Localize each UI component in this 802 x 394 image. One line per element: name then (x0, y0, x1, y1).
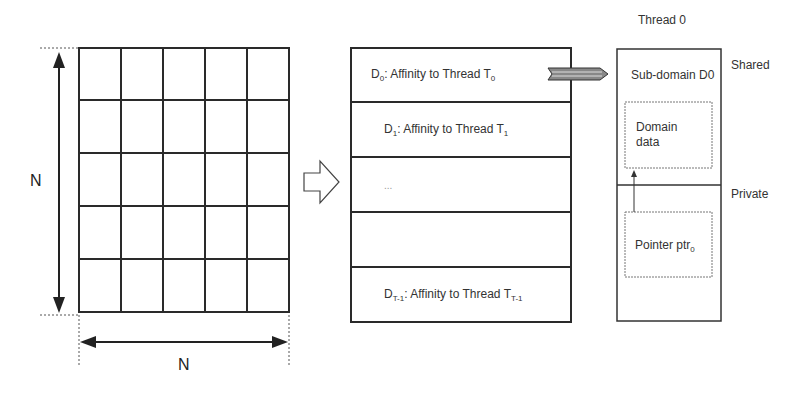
domain-row-0: D0: Affinity to Thread T0 (371, 67, 495, 83)
thread-title: Thread 0 (638, 13, 686, 27)
pointer-label: Pointer ptr0 (635, 238, 695, 254)
grid-matrix (79, 48, 289, 312)
grid-width-label: N (178, 356, 190, 374)
domain-data-label: Domaindata (636, 120, 677, 150)
height-double-arrow-icon (53, 52, 65, 313)
pointer-arrow-icon (631, 170, 637, 212)
domain-row-last: DT-1: Affinity to Thread TT-1 (384, 287, 523, 303)
hollow-right-arrow-icon (304, 161, 339, 203)
width-double-arrow-icon (80, 336, 288, 348)
shared-label: Shared (731, 58, 770, 72)
thread-box (617, 49, 721, 321)
domain-row-ellipsis: ... (384, 180, 392, 191)
grid-height-label: N (30, 172, 42, 190)
domain-row-1: D1: Affinity to Thread T1 (384, 122, 508, 138)
striped-arrow-icon (548, 68, 608, 80)
subdomain-label: Sub-domain D0 (631, 68, 714, 82)
diagram-canvas (0, 0, 802, 394)
private-label: Private (731, 187, 768, 201)
